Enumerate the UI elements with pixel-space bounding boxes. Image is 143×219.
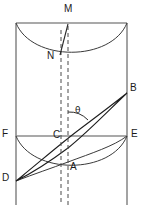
label-point-E: E bbox=[131, 129, 138, 139]
label-point-B: B bbox=[130, 83, 137, 93]
label-point-M: M bbox=[64, 4, 72, 14]
label-point-N: N bbox=[47, 51, 54, 61]
label-point-D: D bbox=[2, 173, 9, 183]
label-point-C: C bbox=[53, 130, 60, 140]
bottom-ellipse-arc bbox=[16, 136, 127, 181]
label-point-F: F bbox=[2, 129, 8, 139]
geometry-figure: M N B θ F C E A D bbox=[0, 0, 143, 219]
figure-svg bbox=[0, 0, 143, 219]
label-angle-theta: θ bbox=[75, 106, 81, 115]
label-point-A: A bbox=[70, 162, 77, 172]
top-ellipse-arc bbox=[16, 23, 127, 52]
